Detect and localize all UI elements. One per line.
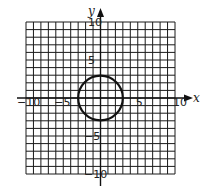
coordinate-plane: x y −10−5510105−5−10 [0,0,201,193]
y-tick-label: −5 [84,130,100,143]
y-tick-label: 5 [88,54,95,67]
x-tick-label: 5 [136,96,143,109]
x-axis-label: x [193,91,200,105]
y-tick-label: 10 [88,16,102,29]
x-tick-label: 10 [173,96,187,109]
y-tick-label: −10 [84,168,107,181]
x-tick-label: −5 [54,96,70,109]
x-tick-label: −10 [17,96,40,109]
